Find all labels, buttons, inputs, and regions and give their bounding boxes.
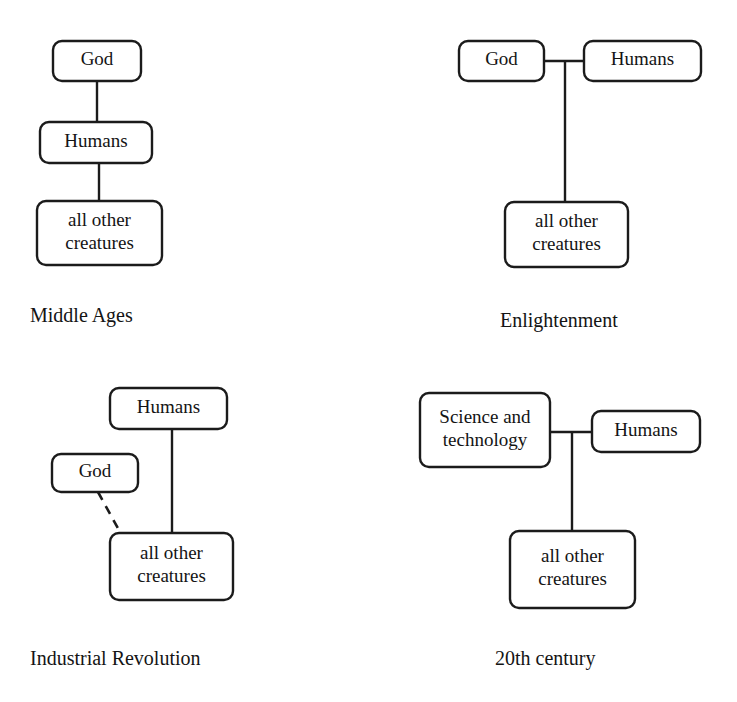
node-label-humans: Humans [614, 419, 677, 440]
node-label-creatures: all other [541, 545, 604, 566]
node-label-god: God [81, 48, 114, 69]
panel-caption-enlightenment: Enlightenment [500, 309, 618, 332]
node-label-creatures: all other [68, 209, 131, 230]
node-god[interactable]: God [53, 41, 141, 81]
diagram-canvas: GodHumansall othercreaturesMiddle AgesGo… [0, 0, 737, 702]
node-label-creatures: creatures [532, 233, 601, 254]
node-label-humans: Humans [137, 396, 200, 417]
node-humans[interactable]: Humans [592, 411, 700, 452]
node-label-humans: Humans [611, 48, 674, 69]
node-label-creatures: all other [535, 210, 598, 231]
panel-caption-industrial-revolution: Industrial Revolution [30, 647, 201, 669]
panel-caption-20th-century: 20th century [495, 647, 596, 670]
node-god[interactable]: God [459, 41, 544, 81]
node-label-creatures: creatures [65, 232, 134, 253]
node-creatures[interactable]: all othercreatures [37, 201, 162, 265]
node-label-creatures: creatures [137, 565, 206, 586]
panel-enlightenment: GodHumansall othercreaturesEnlightenment [459, 41, 701, 332]
panel-industrial-revolution: HumansGodall othercreaturesIndustrial Re… [30, 388, 233, 669]
node-humans[interactable]: Humans [584, 41, 701, 81]
panel-middle-ages: GodHumansall othercreaturesMiddle Ages [30, 41, 162, 327]
node-label-creatures: all other [140, 542, 203, 563]
node-label-creatures: creatures [538, 568, 607, 589]
node-creatures[interactable]: all othercreatures [510, 531, 635, 608]
node-god[interactable]: God [52, 454, 138, 492]
node-humans[interactable]: Humans [110, 388, 227, 429]
node-label-science: technology [443, 429, 528, 450]
node-label-god: God [485, 48, 518, 69]
node-label-science: Science and [439, 406, 531, 427]
node-creatures[interactable]: all othercreatures [505, 202, 628, 267]
node-creatures[interactable]: all othercreatures [110, 533, 233, 600]
node-science[interactable]: Science andtechnology [420, 393, 550, 467]
node-humans[interactable]: Humans [40, 122, 152, 163]
panel-caption-middle-ages: Middle Ages [30, 304, 133, 327]
node-label-god: God [79, 460, 112, 481]
panel-20th-century: Science andtechnologyHumansall othercrea… [420, 393, 700, 670]
connector-god-to-creatures [98, 492, 120, 532]
node-label-humans: Humans [64, 130, 127, 151]
